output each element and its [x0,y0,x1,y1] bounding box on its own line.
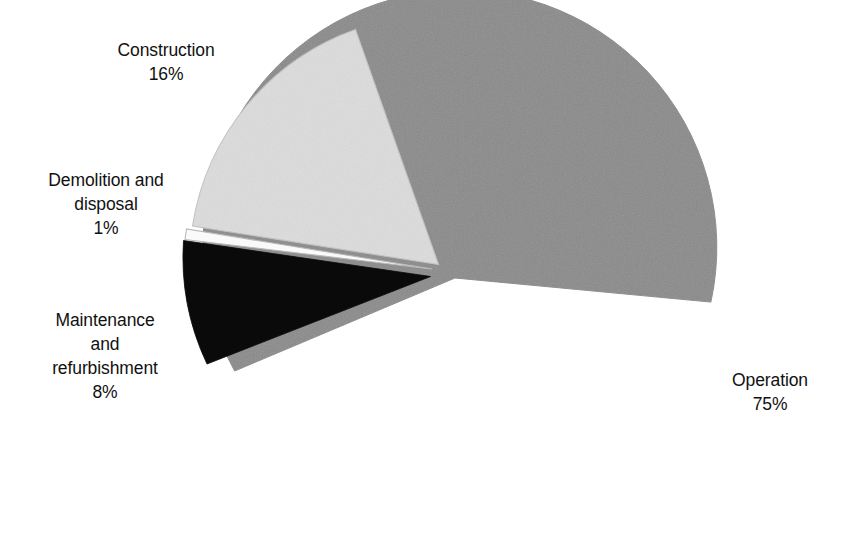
slice-label-operation-name: Operation [694,368,846,392]
slice-label-demolition: Demolition and disposal 1% [2,168,210,240]
slice-label-operation: Operation 75% [694,368,846,416]
slice-label-construction-name: Construction [62,38,270,62]
slice-label-demolition-name-line1: Demolition and [2,168,210,192]
slice-label-demolition-percent: 1% [2,216,210,240]
slice-label-construction: Construction 16% [62,38,270,86]
slice-label-maintenance-name-line2: and [0,332,210,356]
slice-label-maintenance-percent: 8% [0,380,210,404]
pie-chart: Construction 16% Demolition and disposal… [0,0,855,556]
slice-label-demolition-name-line2: disposal [2,192,210,216]
slice-label-maintenance-name-line1: Maintenance [0,308,210,332]
slice-label-operation-percent: 75% [694,392,846,416]
slice-label-construction-percent: 16% [62,62,270,86]
slice-label-maintenance: Maintenance and refurbishment 8% [0,308,210,405]
slice-label-maintenance-name-line3: refurbishment [0,356,210,380]
